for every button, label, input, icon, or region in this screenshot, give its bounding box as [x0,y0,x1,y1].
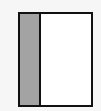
right-content-panel [41,14,91,105]
left-sidebar-panel [20,14,41,105]
layout-frame [18,12,93,107]
